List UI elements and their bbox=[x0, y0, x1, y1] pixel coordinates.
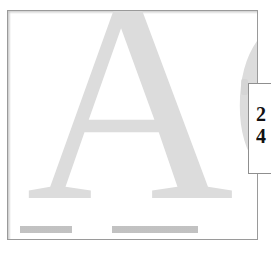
callout-glyph-line-2: 4 bbox=[256, 125, 271, 147]
callout-glyph-group: 2 4 bbox=[256, 103, 271, 147]
page-frame: AC bbox=[7, 10, 258, 240]
callout-glyph-line-1: 2 bbox=[256, 103, 271, 125]
large-letters-artwork: AC bbox=[26, 11, 257, 239]
callout-overlay-box: 2 4 bbox=[248, 83, 271, 174]
screenshot-canvas: AC 2 4 bbox=[0, 0, 271, 253]
artwork-clip-region: AC bbox=[8, 11, 257, 239]
